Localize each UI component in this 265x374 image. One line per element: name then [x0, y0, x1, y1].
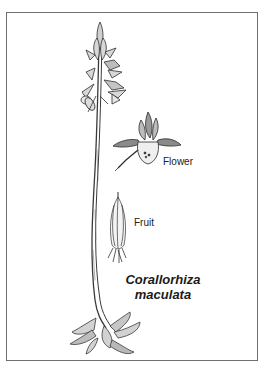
inflorescence	[81, 22, 126, 112]
coral-root	[70, 312, 140, 354]
species-name: Corallorhiza maculata	[118, 272, 208, 302]
species-epithet: maculata	[118, 287, 208, 302]
fruit-detail	[108, 192, 126, 263]
species-genus: Corallorhiza	[118, 272, 208, 287]
flower-label: Flower	[163, 157, 193, 167]
fruit-label: Fruit	[134, 218, 154, 228]
plant-illustration	[0, 0, 265, 374]
